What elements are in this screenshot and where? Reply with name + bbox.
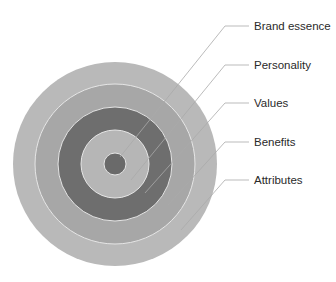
rings-group bbox=[13, 62, 217, 266]
label-attributes: Attributes bbox=[254, 173, 303, 187]
label-benefits: Benefits bbox=[254, 135, 296, 149]
label-brand-essence: Brand essence bbox=[254, 19, 331, 33]
label-personality: Personality bbox=[254, 58, 311, 72]
label-values: Values bbox=[254, 96, 288, 110]
ring-brand-essence bbox=[104, 153, 126, 175]
